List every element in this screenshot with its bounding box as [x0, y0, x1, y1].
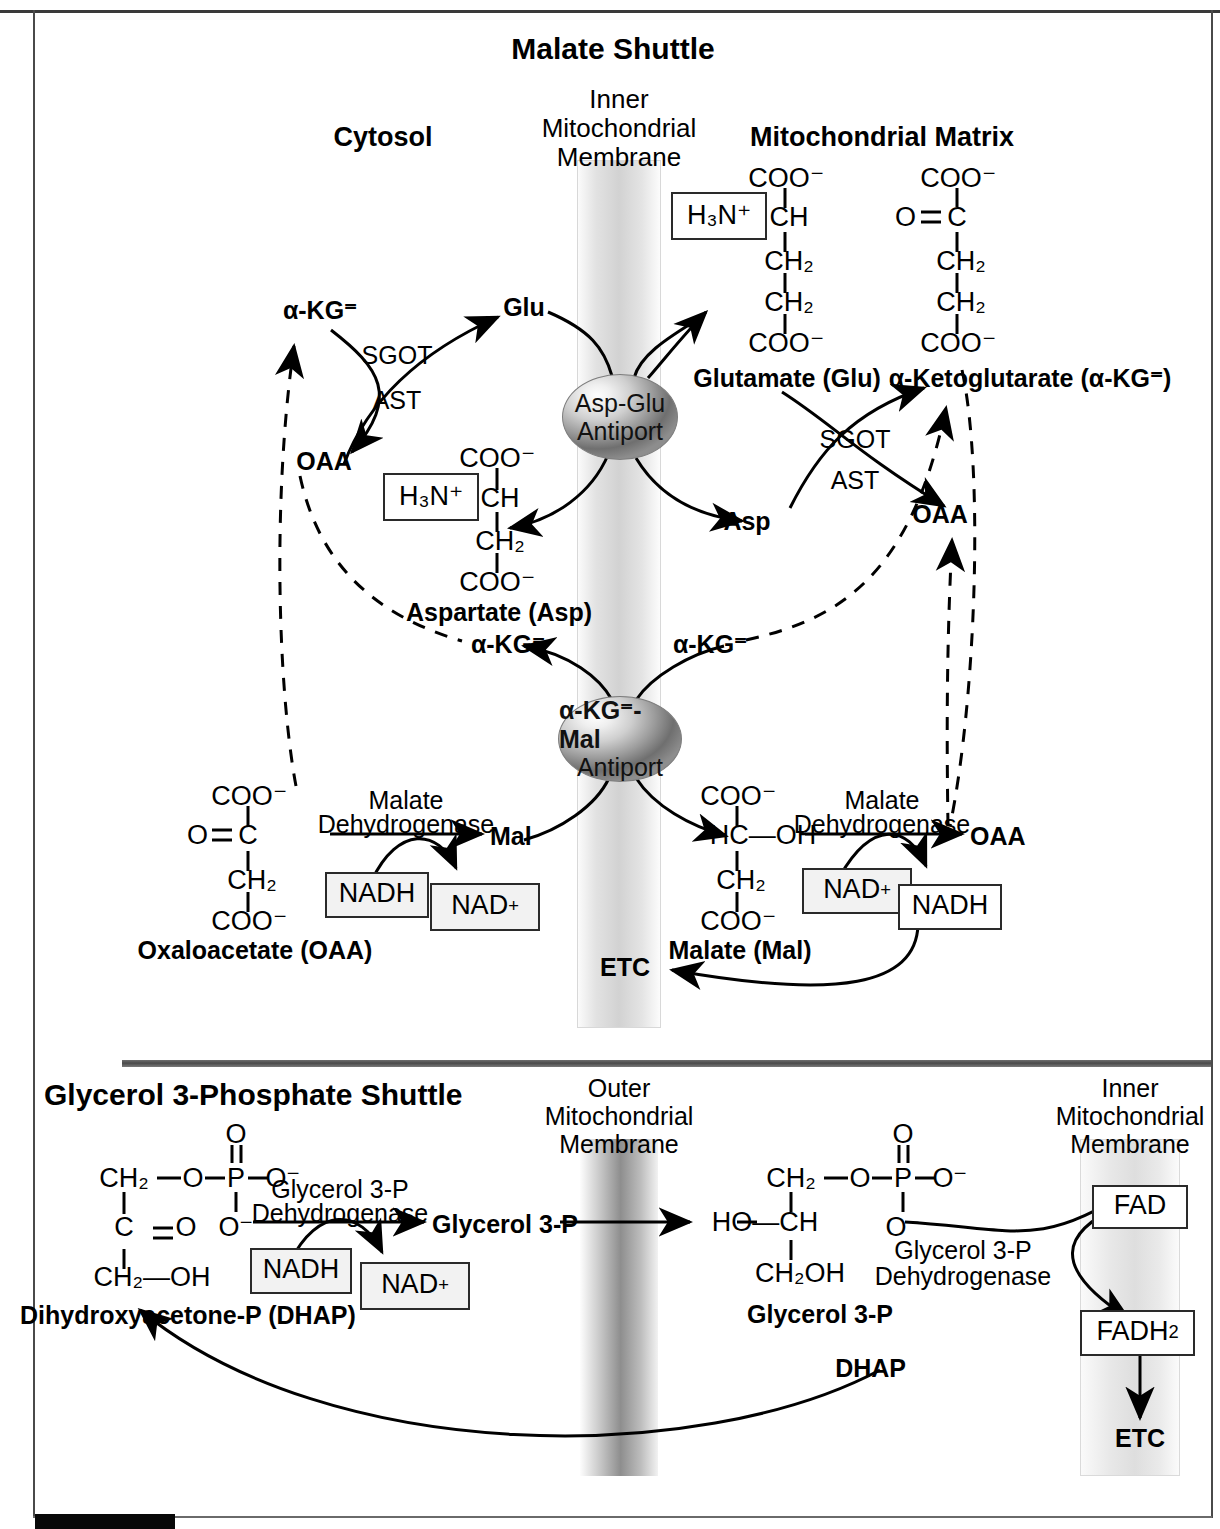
- cofactor-fad-label: FAD: [1114, 1190, 1167, 1221]
- label-oaa-matrix: OAA: [912, 500, 968, 528]
- ketoglutarate-atom-c: C: [947, 202, 967, 232]
- membrane-label-inner-line2: Mitochondrial: [542, 114, 697, 143]
- outer-mitochondrial-membrane-column: [580, 1139, 658, 1476]
- enzyme-g3p-dehydrogenase-membrane-line2: Dehydrogenase: [875, 1262, 1052, 1290]
- label-mal-cytosol: Mal: [490, 822, 532, 850]
- compartment-label-cytosol: Cytosol: [333, 122, 432, 152]
- inner-mitochondrial-membrane-column: [577, 160, 661, 1028]
- label-akg-cytosol-mid: α-KG⁼: [471, 630, 545, 658]
- glutamate-atom-coo-bottom: COO⁻: [748, 328, 824, 358]
- cofactor-fad: FAD: [1092, 1185, 1188, 1229]
- label-dhap-return: DHAP: [835, 1354, 906, 1382]
- enzyme-sgot-matrix: SGOT: [820, 425, 891, 453]
- malate-atom-ch2: CH₂: [716, 865, 765, 895]
- label-oaa-matrix-lower: OAA: [970, 822, 1026, 850]
- dhap-phosphorus: P: [227, 1163, 245, 1193]
- dhap-c1: CH₂: [99, 1163, 148, 1193]
- glutamate-amine-label: H₃N⁺: [687, 199, 751, 231]
- cofactor-nad-plus-cytosol: NAD+: [430, 883, 540, 931]
- transporter-akg-mal-line1: α-KG⁼-Mal: [559, 696, 681, 753]
- dhap-phosphate-o-minus-below: O⁻: [218, 1212, 253, 1242]
- page-border-top: [0, 10, 1220, 13]
- transporter-asp-glu-line2: Antiport: [577, 417, 663, 446]
- dhap-c3: CH₂—OH: [94, 1262, 211, 1292]
- enzyme-ast-matrix: AST: [831, 466, 880, 494]
- cofactor-nad-plus-matrix: NAD+: [802, 868, 912, 914]
- cofactor-nadh-cytosol-label: NADH: [339, 878, 416, 909]
- cofactor-nadh-cytosol: NADH: [325, 872, 429, 918]
- label-etc-glycerol-shuttle: ETC: [1115, 1424, 1165, 1452]
- glutamate-amine-box: H₃N⁺: [671, 192, 767, 240]
- oaa-atom-ch2: CH₂: [227, 865, 276, 895]
- transporter-asp-glu-line1: Asp-Glu: [575, 389, 665, 418]
- malate-atom-coo-top: COO⁻: [700, 781, 776, 811]
- aspartate-atom-coo-bottom: COO⁻: [459, 567, 535, 597]
- cofactor-nad-plus-g3p-charge: +: [438, 1274, 449, 1296]
- oaa-atom-c: C: [238, 820, 258, 850]
- enzyme-g3p-dehydrogenase-membrane-line1: Glycerol 3-P: [894, 1236, 1032, 1264]
- panel-title-glycerol-3-phosphate-shuttle: Glycerol 3-Phosphate Shuttle: [44, 1078, 462, 1112]
- aspartate-atom-ch: CH: [481, 483, 520, 513]
- glutamate-atom-ch2-b: CH₂: [764, 287, 813, 317]
- label-asp-matrix: Asp: [723, 507, 770, 535]
- label-glycerol3p-product: Glycerol 3-P: [432, 1210, 578, 1238]
- ketoglutarate-atom-coo-top: COO⁻: [920, 163, 996, 193]
- g3p-phosphate-o-minus-right: O⁻: [932, 1163, 967, 1193]
- oaa-keto-oxygen: O: [187, 820, 208, 850]
- aspartate-atom-coo-top: COO⁻: [459, 443, 535, 473]
- g3p-c1-ester-oxygen: O: [849, 1163, 870, 1193]
- ketoglutarate-keto-oxygen: O: [895, 202, 916, 232]
- cofactor-nad-plus-g3p: NAD+: [360, 1262, 470, 1310]
- cofactor-fadh2: FADH2: [1080, 1310, 1195, 1356]
- transporter-akg-mal-antiport[interactable]: α-KG⁼-Mal Antiport: [558, 696, 682, 782]
- aspartate-amine-label: H₃N⁺: [399, 480, 463, 512]
- inner-membrane-label-lower-line3: Membrane: [1070, 1130, 1190, 1158]
- cofactor-nadh-matrix-label: NADH: [912, 890, 989, 921]
- glutamate-atom-coo-top: COO⁻: [748, 163, 824, 193]
- cofactor-nadh-g3p: NADH: [250, 1248, 352, 1294]
- label-oxaloacetate-name: Oxaloacetate (OAA): [138, 936, 373, 964]
- transporter-akg-mal-line2: Antiport: [577, 753, 663, 782]
- transporter-asp-glu-antiport[interactable]: Asp-Glu Antiport: [562, 374, 678, 460]
- label-akg-cytosol: α-KG⁼: [283, 296, 357, 324]
- enzyme-malate-dehydrogenase-matrix-line2: Dehydrogenase: [794, 810, 971, 838]
- g3p-c2: HO—CH: [712, 1207, 819, 1237]
- page-border-bottom: [33, 1516, 1212, 1518]
- label-ketoglutarate-name: α-Ketoglutarate (α-KG⁼): [889, 364, 1172, 392]
- aspartate-atom-ch2: CH₂: [475, 526, 524, 556]
- page-border-right: [1211, 10, 1213, 1518]
- outer-membrane-label-line1: Outer: [588, 1074, 651, 1102]
- malate-atom-coo-bottom: COO⁻: [700, 906, 776, 936]
- inner-membrane-label-lower-line1: Inner: [1102, 1074, 1159, 1102]
- enzyme-sgot-cytosol: SGOT: [362, 341, 433, 369]
- label-oaa-cytosol: OAA: [296, 447, 352, 475]
- label-aspartate-name: Aspartate (Asp): [406, 598, 592, 626]
- cofactor-nadh-matrix: NADH: [898, 884, 1002, 930]
- oaa-atom-coo-top: COO⁻: [211, 781, 287, 811]
- ketoglutarate-atom-ch2-b: CH₂: [936, 287, 985, 317]
- outer-membrane-label-line3: Membrane: [559, 1130, 679, 1158]
- label-etc-malate-shuttle: ETC: [600, 953, 650, 981]
- panel-divider: [122, 1060, 1211, 1067]
- label-dhap-name: Dihydroxyacetone-P (DHAP): [20, 1301, 356, 1329]
- label-glycerol3p-name: Glycerol 3-P: [747, 1300, 893, 1328]
- membrane-label-inner-line3: Membrane: [557, 143, 681, 172]
- compartment-label-mitochondrial-matrix: Mitochondrial Matrix: [750, 122, 1014, 152]
- enzyme-g3p-dehydrogenase-cytosol-line2: Dehydrogenase: [252, 1199, 429, 1227]
- cofactor-nad-plus-matrix-charge: +: [880, 879, 891, 901]
- enzyme-malate-dehydrogenase-cytosol-line2: Dehydrogenase: [318, 810, 495, 838]
- label-akg-matrix-mid: α-KG⁼: [673, 630, 747, 658]
- g3p-phosphate-oxygen: O: [892, 1119, 913, 1149]
- cofactor-nadh-g3p-label: NADH: [263, 1254, 340, 1285]
- label-glutamate-name: Glutamate (Glu): [693, 364, 881, 392]
- cofactor-nad-plus-cytosol-charge: +: [508, 895, 519, 917]
- glutamate-atom-ch2-a: CH₂: [764, 246, 813, 276]
- enzyme-ast-cytosol: AST: [373, 386, 422, 414]
- dhap-phosphate-oxygen: O: [225, 1119, 246, 1149]
- label-glu-cytosol: Glu: [503, 293, 545, 321]
- outer-membrane-label-line2: Mitochondrial: [545, 1102, 694, 1130]
- glutamate-atom-ch: CH: [770, 202, 809, 232]
- inner-membrane-label-lower-line2: Mitochondrial: [1056, 1102, 1205, 1130]
- dhap-c2-keto-oxygen: O: [175, 1212, 196, 1242]
- g3p-phosphorus: P: [894, 1163, 912, 1193]
